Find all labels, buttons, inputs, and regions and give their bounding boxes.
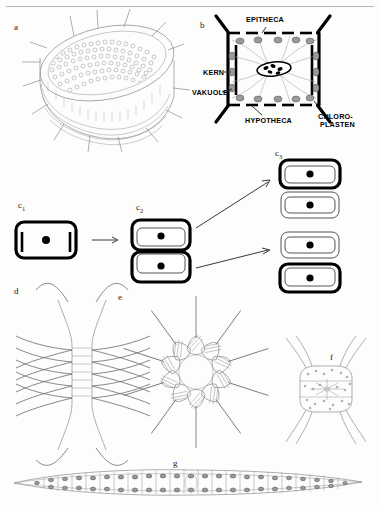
figure-plate: a [0, 0, 380, 510]
chloroplast-spots-g [35, 474, 348, 492]
spindle-filament-g [14, 470, 362, 496]
panel-g-drawing [0, 0, 380, 510]
